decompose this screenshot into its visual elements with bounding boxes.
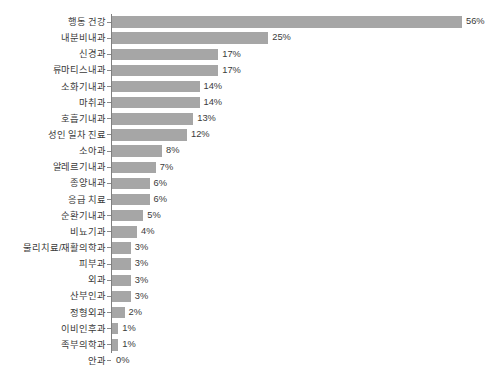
bar-wrapper: 3%: [112, 258, 501, 269]
category-label: 피부과: [79, 256, 106, 272]
bar-row: 산부인과3%: [0, 288, 501, 304]
bar-wrapper: 25%: [112, 32, 501, 43]
bar-wrapper: 4%: [112, 226, 501, 237]
axis-tick: [107, 134, 111, 135]
axis-tick: [107, 167, 111, 168]
axis-tick: [107, 199, 111, 200]
bar-row: 성인 일차 진료12%: [0, 127, 501, 143]
bar: [112, 178, 150, 189]
bar: [112, 129, 187, 140]
bar-wrapper: 0%: [112, 355, 501, 366]
bar: [112, 49, 218, 60]
bar: [112, 145, 162, 156]
bar-row: 이비인후과1%: [0, 321, 501, 337]
axis-tick: [107, 86, 111, 87]
bar-wrapper: 8%: [112, 145, 501, 156]
axis-tick: [107, 22, 111, 23]
axis-tick: [107, 296, 111, 297]
category-label: 안과: [88, 353, 106, 369]
bar-row: 알레르기내과7%: [0, 159, 501, 175]
bar-row: 족부의학과1%: [0, 337, 501, 353]
bar: [112, 65, 218, 76]
bar: [112, 226, 137, 237]
value-label: 1%: [122, 339, 135, 350]
bar-row: 비뇨기과4%: [0, 224, 501, 240]
axis-tick: [107, 280, 111, 281]
category-label: 물리치료/재활의학과: [23, 240, 106, 256]
axis-tick: [107, 328, 111, 329]
category-label: 이비인후과: [61, 321, 106, 337]
axis-tick: [107, 102, 111, 103]
category-label: 종양내과: [70, 175, 106, 191]
bar: [112, 307, 125, 318]
bar-wrapper: 56%: [112, 16, 501, 27]
category-label: 마취과: [79, 95, 106, 111]
value-label: 56%: [466, 16, 485, 27]
axis-tick: [107, 231, 111, 232]
bar-row: 소아과8%: [0, 143, 501, 159]
value-label: 8%: [166, 145, 179, 156]
value-label: 6%: [154, 194, 167, 205]
value-label: 1%: [122, 323, 135, 334]
bar-wrapper: 12%: [112, 129, 501, 140]
bar: [112, 291, 131, 302]
value-label: 17%: [222, 65, 241, 76]
category-label: 족부의학과: [61, 337, 106, 353]
bar: [112, 339, 118, 350]
bar-row: 류마티스내과17%: [0, 62, 501, 78]
category-label: 응급 치료: [68, 192, 106, 208]
category-label: 소아과: [79, 143, 106, 159]
bar-wrapper: 2%: [112, 307, 501, 318]
bar: [112, 81, 200, 92]
value-label: 14%: [204, 81, 223, 92]
bar-row: 응급 치료6%: [0, 192, 501, 208]
axis-tick: [107, 183, 111, 184]
bar-row: 마취과14%: [0, 95, 501, 111]
bar-wrapper: 7%: [112, 162, 501, 173]
bar-wrapper: 17%: [112, 65, 501, 76]
value-label: 17%: [222, 49, 241, 60]
axis-tick: [107, 312, 111, 313]
category-label: 정형외과: [70, 305, 106, 321]
category-label: 알레르기내과: [53, 159, 106, 175]
axis-tick: [107, 151, 111, 152]
axis-tick: [107, 264, 111, 265]
value-label: 14%: [204, 97, 223, 108]
bar-wrapper: 13%: [112, 113, 501, 124]
axis-tick: [107, 247, 111, 248]
value-label: 5%: [147, 210, 160, 221]
bar: [112, 275, 131, 286]
bar-wrapper: 14%: [112, 97, 501, 108]
value-label: 12%: [191, 129, 210, 140]
axis-tick: [107, 118, 111, 119]
category-label: 소화기내과: [61, 79, 106, 95]
category-label: 내분비내과: [61, 30, 106, 46]
category-label: 행동 건강: [68, 14, 106, 30]
value-label: 0%: [116, 355, 129, 366]
bar-row: 외과3%: [0, 272, 501, 288]
bar-wrapper: 3%: [112, 275, 501, 286]
bar-row-list: 행동 건강56%내분비내과25%신경과17%류마티스내과17%소화기내과14%마…: [0, 14, 501, 369]
axis-tick: [107, 344, 111, 345]
category-label: 성인 일차 진료: [48, 127, 106, 143]
bar: [112, 32, 268, 43]
bar-wrapper: 6%: [112, 178, 501, 189]
bar-wrapper: 14%: [112, 81, 501, 92]
bar: [112, 210, 143, 221]
bar-row: 내분비내과25%: [0, 30, 501, 46]
value-label: 7%: [160, 162, 173, 173]
bar-row: 정형외과2%: [0, 305, 501, 321]
axis-tick: [107, 215, 111, 216]
bar: [112, 97, 200, 108]
bar-wrapper: 1%: [112, 323, 501, 334]
category-label: 신경과: [79, 46, 106, 62]
bar-wrapper: 5%: [112, 210, 501, 221]
bar-wrapper: 1%: [112, 339, 501, 350]
bar-row: 물리치료/재활의학과3%: [0, 240, 501, 256]
bar-row: 피부과3%: [0, 256, 501, 272]
value-label: 3%: [135, 258, 148, 269]
category-label: 외과: [88, 272, 106, 288]
bar-row: 안과0%: [0, 353, 501, 369]
category-label: 류마티스내과: [53, 62, 106, 78]
bar-row: 행동 건강56%: [0, 14, 501, 30]
